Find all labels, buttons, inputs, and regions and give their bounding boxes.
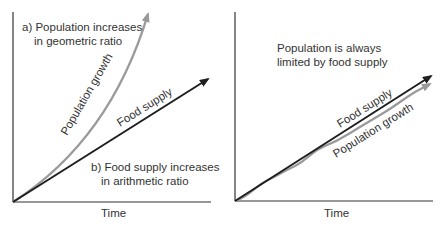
left-caption-a-line2: in geometric ratio (34, 35, 122, 47)
right-x-axis-label: Time (324, 207, 349, 219)
right-panel: Population is always limited by food sup… (235, 12, 433, 219)
left-caption-b-line1: b) Food supply increases (91, 161, 220, 173)
left-population-label: Population growth (58, 51, 114, 137)
left-caption-a-line1: a) Population increases (22, 21, 142, 33)
right-caption-line1: Population is always (277, 42, 381, 54)
left-x-axis-label: Time (101, 207, 126, 219)
left-caption-b-line2: in arithmetic ratio (101, 175, 189, 187)
right-food-line (235, 76, 431, 201)
left-panel: a) Population increases in geometric rat… (13, 12, 220, 219)
malthus-diagram: a) Population increases in geometric rat… (0, 0, 445, 229)
right-caption-line2: limited by food supply (277, 56, 388, 68)
